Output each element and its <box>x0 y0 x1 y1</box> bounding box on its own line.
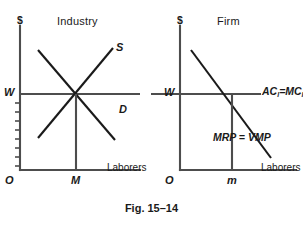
firm-mc-subscript: l <box>302 91 303 98</box>
industry-y-axis-symbol: $ <box>17 15 23 26</box>
industry-demand-curve-label: D <box>119 104 127 115</box>
firm-x-axis-label: Laborers <box>261 163 300 173</box>
industry-origin-label: O <box>5 175 14 186</box>
firm-panel-title: Firm <box>217 16 240 27</box>
firm-ac-text: AC <box>262 85 277 97</box>
industry-quantity-label: M <box>71 175 80 186</box>
firm-mc-text: MC <box>285 85 301 97</box>
firm-mrp-vmp-label: MRP = VMP <box>213 132 271 143</box>
firm-ac-subscript: l <box>277 91 279 98</box>
industry-x-axis-label: Laborers <box>107 163 146 173</box>
industry-panel-title: Industry <box>57 16 98 27</box>
firm-wage-label: W <box>164 87 174 98</box>
firm-y-axis-symbol: $ <box>177 15 183 26</box>
industry-supply-curve-label: S <box>116 42 123 53</box>
firm-origin-label: O <box>165 175 174 186</box>
firm-ac-mc-label: ACl=MCl <box>262 86 303 97</box>
panel-industry: $ Industry S D W O M Laborers <box>0 0 152 200</box>
figure-caption: Fig. 15–14 <box>0 202 303 214</box>
firm-quantity-label: m <box>227 175 237 186</box>
panel-firm: $ Firm W ACl=MCl MRP = VMP O m Laborers <box>151 0 303 200</box>
figure-container: $ Industry S D W O M Laborers $ Firm W A… <box>0 0 303 225</box>
industry-wage-label: W <box>4 87 14 98</box>
